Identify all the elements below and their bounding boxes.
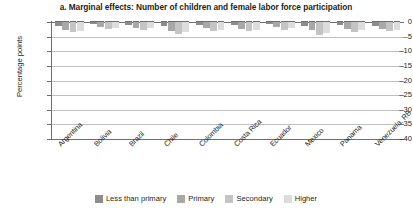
bar: [182, 22, 189, 32]
legend-item[interactable]: Secondary: [225, 194, 272, 203]
y-tick-mark: [47, 37, 51, 38]
bar: [105, 22, 112, 29]
bar-zero-cap: [351, 21, 358, 22]
bar-zero-cap: [344, 21, 351, 22]
bar-zero-cap: [266, 21, 273, 22]
plot-area: [52, 22, 404, 139]
bar-zero-cap: [231, 21, 238, 22]
legend-item[interactable]: Less than primary: [95, 194, 166, 203]
bar: [266, 22, 273, 24]
bar-zero-cap: [175, 21, 182, 22]
bar: [97, 22, 104, 27]
bar: [62, 22, 69, 30]
bar: [231, 22, 238, 25]
bar: [140, 22, 147, 30]
bar-zero-cap: [196, 21, 203, 22]
x-axis-labels: ArgentinaBoliviaBrazilChileColombiaCosta…: [0, 139, 412, 191]
bar: [337, 22, 344, 25]
legend-label: Higher: [295, 194, 317, 203]
bar-zero-cap: [112, 21, 119, 22]
chart-legend: Less than primaryPrimarySecondaryHigher: [0, 194, 412, 203]
bar-zero-cap: [182, 21, 189, 22]
y-tick-mark: [47, 110, 51, 111]
bar-zero-cap: [358, 21, 365, 22]
bar-zero-cap: [97, 21, 104, 22]
legend-label: Less than primary: [106, 194, 166, 203]
y-tick-mark: [47, 81, 51, 82]
legend-swatch-icon: [225, 195, 233, 203]
bar-zero-cap: [70, 21, 77, 22]
bar: [323, 22, 330, 33]
bar: [175, 22, 182, 34]
bar: [70, 22, 77, 32]
bar-zero-cap: [309, 21, 316, 22]
bar-zero-cap: [77, 21, 84, 22]
bar-group: [298, 22, 333, 139]
bar-zero-cap: [55, 21, 62, 22]
bar-group: [263, 22, 298, 139]
bar-zero-cap: [337, 21, 344, 22]
bar: [281, 22, 288, 30]
bar-zero-cap: [218, 21, 225, 22]
bar: [203, 22, 210, 28]
legend-swatch-icon: [284, 195, 292, 203]
bar: [253, 22, 260, 30]
bar-zero-cap: [288, 21, 295, 22]
legend-item[interactable]: Higher: [284, 194, 317, 203]
bar: [238, 22, 245, 29]
legend-label: Secondary: [236, 194, 272, 203]
bar: [161, 22, 168, 26]
bar: [55, 22, 62, 26]
bar-zero-cap: [316, 21, 323, 22]
bar: [77, 22, 84, 31]
bar: [112, 22, 119, 28]
bar-zero-cap: [203, 21, 210, 22]
bar: [351, 22, 358, 32]
bar-zero-cap: [323, 21, 330, 22]
y-axis-title: Percentage points: [15, 7, 24, 127]
y-tick-label: 0: [368, 18, 412, 26]
bar: [168, 22, 175, 31]
bar: [309, 22, 316, 30]
bar-group: [334, 22, 369, 139]
y-tick-mark: [47, 22, 51, 23]
bar-group: [52, 22, 87, 139]
bar: [358, 22, 365, 30]
bar: [288, 22, 295, 28]
y-tick-label: –10: [368, 47, 412, 55]
y-tick-label: –20: [368, 77, 412, 85]
bar-zero-cap: [90, 21, 97, 22]
bar-zero-cap: [210, 21, 217, 22]
bar-zero-cap: [161, 21, 168, 22]
bar: [133, 22, 140, 28]
bar-zero-cap: [62, 21, 69, 22]
bar-zero-cap: [140, 21, 147, 22]
bar-zero-cap: [105, 21, 112, 22]
bar: [301, 22, 308, 26]
bar-zero-cap: [301, 21, 308, 22]
legend-label: Primary: [188, 194, 214, 203]
y-tick-mark: [47, 51, 51, 52]
bar-zero-cap: [273, 21, 280, 22]
y-tick-label: –15: [368, 62, 412, 70]
legend-swatch-icon: [95, 195, 103, 203]
bar-zero-cap: [246, 21, 253, 22]
bar-group: [122, 22, 157, 139]
bar-zero-cap: [133, 21, 140, 22]
bar-group: [158, 22, 193, 139]
chart-title: a. Marginal effects: Number of children …: [0, 2, 412, 12]
bar-group: [87, 22, 122, 139]
bar: [246, 22, 253, 31]
bar: [344, 22, 351, 29]
legend-item[interactable]: Primary: [177, 194, 214, 203]
bar: [125, 22, 132, 25]
bar: [210, 22, 217, 31]
legend-swatch-icon: [177, 195, 185, 203]
bar-zero-cap: [125, 21, 132, 22]
y-tick-mark: [47, 66, 51, 67]
bar-zero-cap: [238, 21, 245, 22]
y-tick-label: –25: [368, 91, 412, 99]
bar: [90, 22, 97, 24]
y-tick-label: –5: [368, 33, 412, 41]
